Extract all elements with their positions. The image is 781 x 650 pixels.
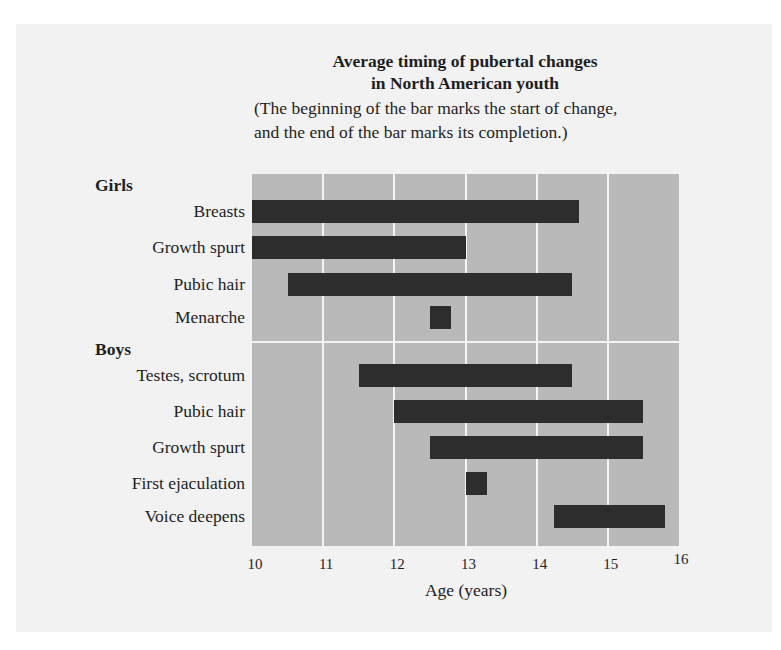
range-bar-girls-menarche — [430, 306, 451, 329]
row-label: Pubic hair — [174, 401, 245, 422]
x-tick-label: 14 — [532, 556, 547, 573]
range-bar-boys-testes-scrotum — [359, 364, 573, 387]
chart-subtitle-line-1: (The beginning of the bar marks the star… — [254, 96, 694, 120]
x-axis-label: Age (years) — [425, 580, 507, 601]
gridline-15 — [607, 174, 609, 546]
range-bar-boys-growth-spurt — [430, 436, 644, 459]
x-tick-label: 15 — [603, 556, 618, 573]
plot-area — [252, 174, 679, 546]
x-tick-label: 16 — [674, 551, 689, 568]
row-label: Growth spurt — [152, 237, 245, 258]
group-label-boys: Boys — [95, 339, 131, 360]
range-bar-boys-voice-deepens — [554, 505, 664, 528]
gridline-14 — [536, 174, 538, 546]
gridline-12 — [393, 174, 395, 546]
group-label-girls: Girls — [95, 175, 133, 196]
chart-subtitle: (The beginning of the bar marks the star… — [254, 96, 694, 144]
x-tick-label: 11 — [319, 556, 333, 573]
chart-subtitle-line-2: and the end of the bar marks its complet… — [254, 120, 694, 144]
range-bar-girls-growth-spurt — [252, 236, 466, 259]
chart-title-line-1: Average timing of pubertal changes — [232, 50, 698, 72]
gridline-11 — [322, 174, 324, 546]
x-tick-label: 10 — [248, 556, 263, 573]
x-tick-label: 12 — [390, 556, 405, 573]
row-label: Pubic hair — [174, 274, 245, 295]
range-bar-girls-pubic-hair — [288, 273, 573, 296]
chart-title: Average timing of pubertal changes in No… — [232, 50, 698, 94]
range-bar-girls-breasts — [252, 200, 579, 223]
group-divider — [252, 341, 679, 343]
row-label: Voice deepens — [145, 506, 245, 527]
row-label: Breasts — [193, 201, 245, 222]
range-bar-boys-first-ejaculation — [466, 472, 487, 495]
row-label: Growth spurt — [152, 437, 245, 458]
chart-title-line-2: in North American youth — [232, 72, 698, 94]
x-tick-label: 13 — [461, 556, 476, 573]
row-label: Menarche — [175, 307, 245, 328]
range-bar-boys-pubic-hair — [394, 400, 643, 423]
row-label: First ejaculation — [132, 473, 245, 494]
row-label: Testes, scrotum — [136, 365, 245, 386]
